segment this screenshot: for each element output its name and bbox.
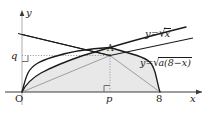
point-a-label: A <box>107 44 114 53</box>
x-tick-label-8: 8 <box>156 94 162 104</box>
curve-label-sqrt-x-eq: = <box>151 28 159 39</box>
curve-label-sqrt-x: y=√x <box>145 28 171 39</box>
y-tick-label-q: q <box>11 51 17 61</box>
x-axis-label: x <box>190 94 196 104</box>
math-figure: y x O p 8 q A y=√x y=√a(8−x) <box>0 0 218 117</box>
radical-sign-icon-2: √ <box>153 57 159 68</box>
curve-label-sqrt-a8x-radicand: a(8−x) <box>158 57 191 68</box>
radical-sign-icon: √ <box>159 28 165 40</box>
curve-label-sqrt-a8x: y=√a(8−x) <box>140 57 192 68</box>
line-descending-left-tail <box>18 34 22 35</box>
x-tick-label-p: p <box>106 94 112 104</box>
origin-label: O <box>15 94 23 104</box>
curve-label-sqrt-a8x-eq: = <box>145 57 153 68</box>
y-axis-label: y <box>26 8 32 18</box>
